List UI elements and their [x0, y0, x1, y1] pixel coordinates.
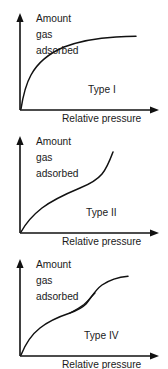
type-label-type-1: Type I: [88, 84, 116, 95]
y-axis-type-4: [16, 259, 23, 356]
chart-panel-type-4: Amount gas adsorbed Type IV Relative pre…: [0, 246, 168, 369]
y-axis-arrow-icon: [16, 136, 23, 145]
y-axis-type-2: [16, 136, 23, 233]
type-label-type-2: Type II: [86, 207, 117, 218]
isotherm-curve-type-4-adsorption: [21, 276, 128, 355]
y-axis-label-line-3: adsorbed: [36, 291, 79, 302]
y-axis-label-line-1: Amount: [36, 259, 71, 270]
y-axis-label-line-2: gas: [36, 275, 52, 286]
y-axis-label-line-1: Amount: [36, 13, 71, 24]
y-axis-label-line-2: gas: [36, 29, 52, 40]
y-axis-label-line-2: gas: [36, 152, 52, 163]
x-axis-arrow-icon: [150, 229, 159, 236]
x-axis-label-type-4: Relative pressure: [62, 359, 142, 369]
x-axis-arrow-icon: [150, 352, 159, 359]
y-axis-arrow-icon: [16, 13, 23, 22]
x-axis-arrow-icon: [150, 106, 159, 113]
y-axis-label-line-1: Amount: [36, 136, 71, 147]
chart-panel-type-1: Amount gas adsorbed Type I Relative pres…: [0, 0, 168, 123]
y-axis-label-line-3: adsorbed: [36, 45, 79, 56]
type-label-type-4: Type IV: [84, 330, 119, 341]
isotherm-curve-type-2: [21, 152, 113, 232]
y-axis-type-1: [16, 13, 23, 110]
y-axis-arrow-icon: [16, 259, 23, 268]
chart-panel-type-2: Amount gas adsorbed Type II Relative pre…: [0, 123, 168, 246]
y-axis-label-line-3: adsorbed: [36, 168, 79, 179]
adsorption-isotherms-figure: Amount gas adsorbed Type I Relative pres…: [0, 0, 168, 369]
